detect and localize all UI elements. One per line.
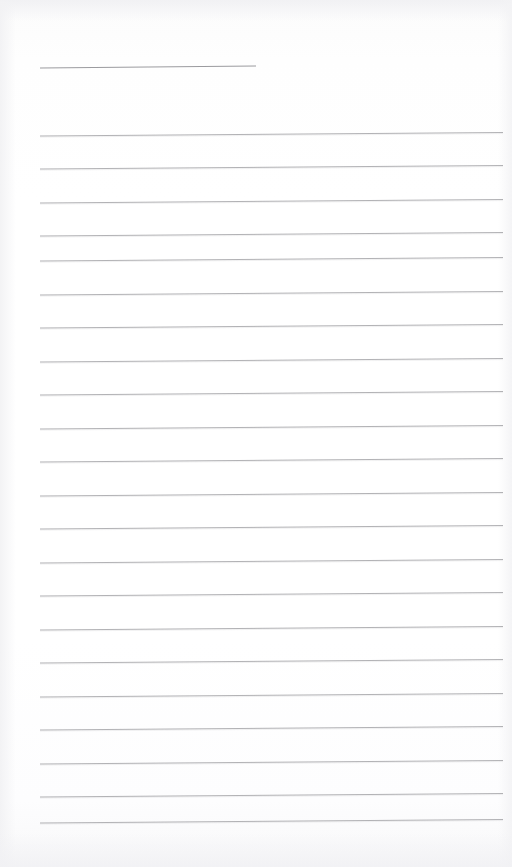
writable-line-row[interactable] (40, 635, 503, 665)
writable-line-row[interactable] (40, 568, 503, 598)
title-rule-group (40, 66, 256, 68)
writable-line-row[interactable] (40, 233, 503, 263)
writable-line-row[interactable] (40, 795, 503, 825)
writable-line-row[interactable] (40, 334, 503, 364)
lined-paper-page (0, 0, 512, 867)
writable-line-row[interactable] (40, 468, 503, 498)
writable-line-row[interactable] (40, 602, 503, 632)
writable-line-row[interactable] (40, 434, 503, 464)
writable-line-row[interactable] (40, 401, 503, 431)
writable-line-row[interactable] (40, 108, 503, 138)
writable-line-row[interactable] (40, 367, 503, 397)
writable-line-row[interactable] (40, 736, 503, 766)
writable-line-row[interactable] (40, 501, 503, 531)
writable-line-row[interactable] (40, 535, 503, 565)
writable-line-row[interactable] (40, 702, 503, 732)
writable-line-row[interactable] (40, 175, 503, 205)
writable-line-row[interactable] (40, 267, 503, 297)
writable-line-row[interactable] (40, 300, 503, 330)
title-rule (40, 66, 256, 68)
writable-line-row[interactable] (40, 669, 503, 699)
writable-line-row[interactable] (40, 141, 503, 171)
